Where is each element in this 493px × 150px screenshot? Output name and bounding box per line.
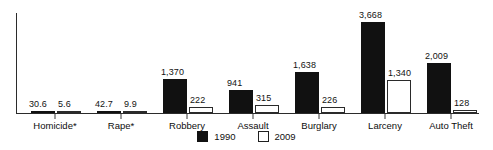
bar-2009 — [189, 107, 213, 113]
bar-group: 42.79.9 — [95, 13, 147, 113]
bar-1990 — [163, 79, 187, 113]
bar-2009 — [321, 107, 345, 113]
bar-value-label-1990: 1,638 — [293, 60, 316, 70]
bar-group: 3,6681,340 — [359, 13, 411, 113]
x-axis-category-label: Larceny — [349, 120, 421, 131]
bar-group: 941315 — [227, 13, 279, 113]
bar-1990 — [361, 22, 385, 113]
legend-item-1990: 1990 — [197, 131, 235, 142]
bar-1990 — [31, 111, 55, 113]
x-axis-category-label: Assault — [217, 120, 289, 131]
bar-value-label-2009: 226 — [322, 95, 337, 105]
legend-label-1990: 1990 — [214, 131, 235, 142]
bar-value-label-2009: 1,340 — [388, 68, 411, 78]
x-axis-tick — [385, 114, 386, 119]
bar-value-label-1990: 1,370 — [161, 67, 184, 77]
x-axis-tick — [451, 114, 452, 119]
bar-chart: 30.65.642.79.91,3702229413151,6382263,66… — [0, 0, 493, 150]
legend-item-2009: 2009 — [258, 131, 296, 142]
legend-swatch-1990 — [197, 131, 208, 142]
bar-1990 — [427, 63, 451, 113]
bar-value-label-2009: 128 — [454, 98, 469, 108]
bar-value-label-1990: 3,668 — [359, 10, 382, 20]
bar-2009 — [453, 110, 477, 113]
bar-group: 30.65.6 — [29, 13, 81, 113]
bar-2009 — [57, 111, 81, 113]
x-axis-tick — [121, 114, 122, 119]
plot-area: 30.65.642.79.91,3702229413151,6382263,66… — [17, 13, 479, 113]
x-axis-category-label: Robbery — [151, 120, 223, 131]
x-axis-line — [16, 113, 479, 114]
x-axis-tick — [253, 114, 254, 119]
bar-value-label-1990: 941 — [227, 78, 242, 88]
x-axis-tick — [55, 114, 56, 119]
x-axis-category-label: Homicide* — [19, 120, 91, 131]
x-axis-tick — [319, 114, 320, 119]
bar-value-label-2009: 5.6 — [58, 99, 71, 109]
bar-group: 1,638226 — [293, 13, 345, 113]
x-axis-category-label: Burglary — [283, 120, 355, 131]
bar-2009 — [387, 80, 411, 113]
bar-1990 — [229, 90, 253, 113]
x-axis-tick — [187, 114, 188, 119]
bar-group: 1,370222 — [161, 13, 213, 113]
chart-legend: 1990 2009 — [0, 131, 493, 142]
bar-1990 — [295, 72, 319, 113]
bar-group: 2,009128 — [425, 13, 477, 113]
bar-value-label-2009: 9.9 — [124, 99, 137, 109]
bar-value-label-1990: 42.7 — [95, 99, 113, 109]
bar-2009 — [255, 105, 279, 113]
bar-value-label-2009: 222 — [190, 95, 205, 105]
legend-label-2009: 2009 — [275, 131, 296, 142]
legend-swatch-2009 — [258, 131, 269, 142]
x-axis-category-label: Auto Theft — [415, 120, 487, 131]
bar-1990 — [97, 111, 121, 113]
bar-value-label-2009: 315 — [256, 93, 271, 103]
bar-value-label-1990: 30.6 — [29, 99, 47, 109]
x-axis-category-label: Rape* — [85, 120, 157, 131]
bar-value-label-1990: 2,009 — [425, 51, 448, 61]
bar-2009 — [123, 111, 147, 113]
